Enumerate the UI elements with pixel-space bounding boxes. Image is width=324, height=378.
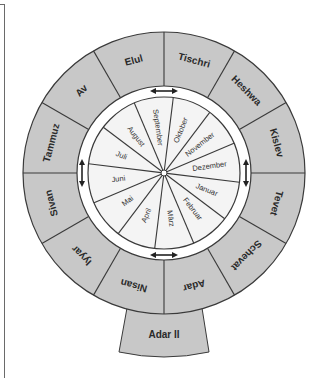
adar-ii-label: Adar II <box>148 329 179 340</box>
center-pivot <box>161 170 167 176</box>
calendar-wheel: Adar II TischriHeshwaKislevTevetSchevatA… <box>0 0 324 378</box>
adar-ii-tab: Adar II <box>119 308 209 357</box>
gregorian-months-wheel[interactable]: DezemberJanuarFebruarMärzAprilMaiJuniJul… <box>88 97 240 249</box>
